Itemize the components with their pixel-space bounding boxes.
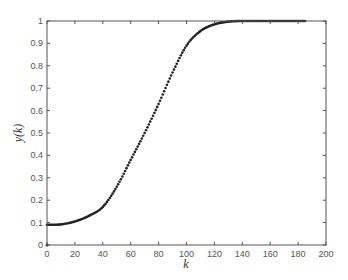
data-point [129,159,132,162]
data-point [155,109,158,112]
data-point [150,117,153,120]
data-point [152,114,155,117]
y-tick-label: 0.2 [30,195,43,205]
data-point [118,181,121,184]
x-axis-ticks: 020406080100120140160180200 [44,21,333,259]
y-tick-label: 1 [38,16,43,26]
data-point [134,151,137,154]
x-tick-label: 0 [44,249,49,259]
data-point [143,132,146,135]
y-tick-label: 0.3 [30,173,43,183]
y-tick-label: 0.5 [30,128,43,138]
x-tick-label: 200 [318,249,333,259]
x-tick-label: 160 [263,249,278,259]
data-point [121,175,124,178]
data-point [182,49,185,52]
plot-area [46,20,307,247]
y-axis-ticks: 00.10.20.30.40.50.60.70.80.91 [30,16,326,250]
y-axis-label: y(k) [11,124,25,144]
data-point [145,129,148,132]
data-point [167,80,170,83]
y-tick-label: 0.6 [30,106,43,116]
x-tick-label: 40 [98,249,108,259]
data-point [177,60,180,63]
data-point [122,172,125,175]
x-tick-label: 120 [207,249,222,259]
data-point [141,137,144,140]
data-point [166,84,169,87]
data-point [128,161,131,164]
data-point [148,123,151,126]
data-point [180,54,183,57]
data-point [131,156,134,159]
data-point [184,47,187,50]
data-point [127,164,130,167]
data-point [113,190,116,193]
data-point [168,77,171,80]
data-point [156,106,159,109]
data-point [153,112,156,115]
data-point [173,68,176,71]
x-tick-label: 80 [154,249,164,259]
data-point [157,103,160,106]
data-point [139,140,142,143]
data-point [117,183,120,186]
x-tick-label: 140 [235,249,250,259]
data-point [114,188,117,191]
data-point [146,126,149,129]
y-tick-label: 0 [38,240,43,250]
y-tick-label: 0.9 [30,38,43,48]
x-tick-label: 60 [126,249,136,259]
data-point [164,87,167,90]
data-point [138,143,141,146]
data-point [175,62,178,65]
data-point [170,74,173,77]
data-point [125,167,128,170]
data-point [136,145,139,148]
line-chart: 00.10.20.30.40.50.60.70.80.91 0204060801… [0,0,348,280]
y-tick-label: 0.8 [30,61,43,71]
data-point [120,178,123,181]
x-axis-label: k [183,257,189,271]
data-point [142,134,145,137]
data-point [110,195,113,198]
data-point [159,100,162,103]
data-point [174,65,177,68]
axes-box [47,21,326,245]
data-point [161,93,164,96]
y-tick-label: 0.4 [30,150,43,160]
data-point [124,170,127,173]
data-point [171,71,174,74]
x-tick-label: 180 [291,249,306,259]
y-tick-label: 0.7 [30,83,43,93]
axes [47,21,326,245]
data-point [135,148,138,151]
data-point [181,51,184,54]
data-point [132,153,135,156]
data-point [178,57,181,60]
x-tick-label: 20 [70,249,80,259]
data-point [111,192,114,195]
data-point [160,96,163,99]
y-tick-label: 0.1 [30,218,43,228]
data-point [163,90,166,93]
data-point [115,185,118,188]
data-point [149,120,152,123]
